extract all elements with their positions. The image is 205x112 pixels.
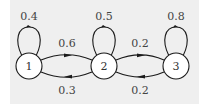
node-label: 3 bbox=[173, 60, 180, 73]
edge-2-to-3 bbox=[116, 54, 164, 61]
self-loop-3 bbox=[165, 25, 187, 56]
arrowhead-icon bbox=[137, 75, 145, 79]
arrowhead-icon bbox=[26, 25, 31, 27]
arrowhead-icon bbox=[101, 25, 106, 27]
edge-1-to-2 bbox=[41, 54, 92, 61]
arrowhead-icon bbox=[64, 75, 72, 79]
node-label: 1 bbox=[26, 60, 33, 73]
node-label: 2 bbox=[101, 60, 108, 73]
self-loop-1-label: 0.4 bbox=[20, 10, 38, 23]
arrowhead-icon bbox=[137, 54, 145, 58]
self-loop-2 bbox=[93, 25, 115, 56]
edge-2-to-1 bbox=[41, 72, 92, 79]
edge-1-to-2-label: 0.6 bbox=[58, 37, 76, 50]
arrowhead-icon bbox=[173, 25, 178, 27]
node-3: 3 bbox=[163, 53, 189, 79]
edge-2-to-3-label: 0.2 bbox=[131, 37, 149, 50]
self-loop-1 bbox=[18, 25, 40, 56]
node-1: 1 bbox=[16, 53, 42, 79]
node-2: 2 bbox=[91, 53, 117, 79]
edge-3-to-2-label: 0.2 bbox=[131, 84, 149, 97]
self-loop-2-label: 0.5 bbox=[95, 10, 113, 23]
edge-3-to-2 bbox=[116, 72, 164, 79]
arrowhead-icon bbox=[64, 54, 72, 58]
self-loop-3-label: 0.8 bbox=[167, 10, 185, 23]
edge-2-to-1-label: 0.3 bbox=[58, 84, 76, 97]
markov-chain-diagram: 1 2 3 0.4 0.5 0.8 0.6 0.3 0.2 0.2 bbox=[0, 0, 205, 112]
